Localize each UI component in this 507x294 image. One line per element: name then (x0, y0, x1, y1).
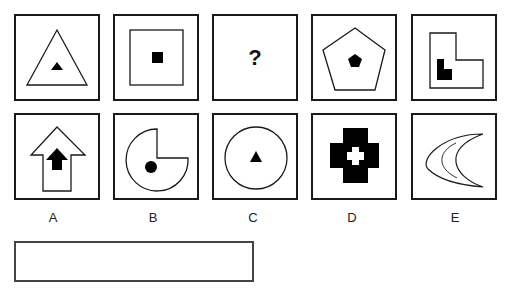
option-b[interactable] (113, 113, 199, 200)
answer-box[interactable] (14, 241, 254, 282)
option-b-label: B (110, 210, 196, 225)
option-c-label: C (210, 210, 296, 225)
triangle-in-circle-icon (214, 115, 296, 198)
option-a[interactable] (14, 113, 100, 200)
option-e-label: E (412, 210, 498, 225)
option-a-label: A (10, 210, 96, 225)
sequence-cell-1 (14, 14, 100, 101)
cross-in-cross-icon (313, 115, 395, 198)
l-shape-in-l-shape-icon (413, 16, 495, 99)
question-mark: ? (214, 16, 296, 99)
pentagon-in-pentagon-icon (313, 16, 395, 99)
option-e[interactable] (411, 113, 497, 200)
arrow-in-arrow-icon (16, 115, 98, 198)
sequence-cell-missing: ? (212, 14, 298, 101)
triangle-in-triangle-icon (16, 16, 98, 99)
option-d[interactable] (311, 113, 397, 200)
option-d-label: D (309, 210, 395, 225)
pacman-with-dot-icon (115, 115, 197, 198)
sequence-cell-5 (411, 14, 497, 101)
sequence-cell-2 (113, 14, 199, 101)
option-c[interactable] (212, 113, 298, 200)
sequence-cell-4 (311, 14, 397, 101)
square-in-square-icon (115, 16, 197, 99)
crescent-icon (413, 115, 495, 198)
